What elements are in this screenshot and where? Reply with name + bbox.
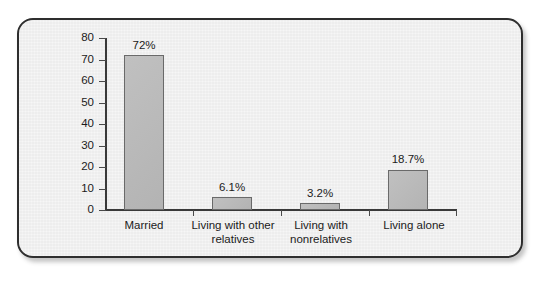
category-label-other-relatives-line1: Living with other bbox=[187, 218, 279, 232]
bar-living-with-other-relatives[interactable] bbox=[212, 197, 252, 210]
category-label-nonrelatives-line2: nonrelatives bbox=[277, 232, 365, 246]
y-tick-label-70: 70 bbox=[64, 54, 94, 65]
bar-value-living-alone: 18.7% bbox=[375, 153, 441, 165]
y-tick-0 bbox=[99, 210, 106, 211]
y-tick-label-20-wrap: 20 bbox=[62, 161, 94, 173]
y-tick-label-30: 30 bbox=[64, 140, 94, 151]
y-tick-60 bbox=[99, 81, 106, 82]
x-tick-boundary-4 bbox=[456, 210, 457, 216]
y-tick-50 bbox=[99, 103, 106, 104]
category-label-alone: Living alone bbox=[368, 218, 460, 232]
y-tick-label-60: 60 bbox=[64, 75, 94, 86]
y-tick-label-50-wrap: 50 bbox=[62, 97, 94, 109]
x-tick-boundary-2 bbox=[281, 210, 282, 216]
y-tick-label-0-wrap: 0 bbox=[62, 204, 94, 216]
y-tick-label-80: 80 bbox=[64, 32, 94, 43]
category-label-nonrelatives: Living with nonrelatives bbox=[277, 218, 365, 246]
plot-area: 0 10 20 30 40 50 60 70 8 bbox=[0, 0, 546, 282]
category-label-other-relatives: Living with other relatives bbox=[187, 218, 279, 246]
y-tick-label-0: 0 bbox=[64, 204, 94, 215]
y-tick-80 bbox=[99, 38, 106, 39]
y-tick-20 bbox=[99, 167, 106, 168]
y-tick-10 bbox=[99, 189, 106, 190]
y-tick-30 bbox=[99, 146, 106, 147]
y-tick-label-10-wrap: 10 bbox=[62, 183, 94, 195]
category-label-married: Married bbox=[104, 218, 184, 232]
category-label-nonrelatives-line1: Living with bbox=[277, 218, 365, 232]
bar-value-living-with-other-relatives: 6.1% bbox=[202, 181, 262, 193]
figure: 0 10 20 30 40 50 60 70 8 bbox=[0, 0, 546, 282]
y-tick-label-60-wrap: 60 bbox=[62, 75, 94, 87]
y-tick-label-10: 10 bbox=[64, 183, 94, 194]
category-label-alone-line1: Living alone bbox=[368, 218, 460, 232]
category-label-other-relatives-line2: relatives bbox=[187, 232, 279, 246]
category-label-married-line1: Married bbox=[104, 218, 184, 232]
bar-value-married: 72% bbox=[114, 39, 174, 51]
bar-value-living-with-nonrelatives: 3.2% bbox=[290, 187, 350, 199]
y-tick-label-30-wrap: 30 bbox=[62, 140, 94, 152]
bar-married[interactable] bbox=[124, 55, 164, 210]
y-tick-70 bbox=[99, 60, 106, 61]
bar-living-alone[interactable] bbox=[388, 170, 428, 210]
y-tick-label-80-wrap: 80 bbox=[62, 32, 94, 44]
bar-living-with-nonrelatives[interactable] bbox=[300, 203, 340, 210]
x-tick-boundary-3 bbox=[369, 210, 370, 216]
y-tick-40 bbox=[99, 124, 106, 125]
y-tick-label-40-wrap: 40 bbox=[62, 118, 94, 130]
y-tick-label-50: 50 bbox=[64, 97, 94, 108]
x-tick-boundary-1 bbox=[193, 210, 194, 216]
y-tick-label-40: 40 bbox=[64, 118, 94, 129]
y-tick-label-70-wrap: 70 bbox=[62, 54, 94, 66]
y-tick-label-20: 20 bbox=[64, 161, 94, 172]
